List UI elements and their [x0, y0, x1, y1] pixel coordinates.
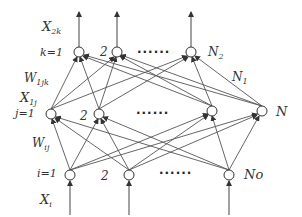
output-index-label: k=1 — [40, 47, 63, 58]
output-node-2-label: 2 — [100, 46, 108, 58]
hidden-ellipsis: ...... — [136, 103, 169, 117]
output-arrows — [79, 12, 191, 47]
input-arrows — [70, 181, 229, 215]
output-size-label: N2 — [208, 46, 224, 61]
connections-hidden-output — [51, 55, 262, 109]
hidden-node-3 — [207, 106, 217, 116]
input-node-no-label: No — [244, 168, 263, 181]
hidden-size-label: N1 — [232, 71, 248, 86]
output-node-1 — [74, 47, 84, 57]
input-node-2-label: 2 — [101, 170, 109, 182]
neural-network-diagram: X2k k=1 2 ...... N2 W1jk N1 X1j j=1 2 ..… — [0, 0, 302, 217]
output-node-2 — [112, 47, 122, 57]
input-node-no — [224, 170, 234, 180]
weight-label-wij: Wij — [32, 137, 49, 152]
hidden-node-2-label: 2 — [80, 110, 88, 122]
hidden-index-label: j=1 — [15, 108, 35, 119]
output-node-n2 — [186, 47, 196, 57]
output-variable-label: X2k — [42, 20, 61, 36]
hidden-node-2 — [94, 109, 104, 119]
input-variable-label: Xi — [40, 193, 52, 209]
hidden-node-n — [257, 106, 267, 116]
input-node-1 — [65, 170, 75, 180]
hidden-variable-label: X1j — [20, 91, 37, 107]
input-index-label: i=1 — [37, 168, 57, 179]
input-node-2 — [124, 170, 134, 180]
input-ellipsis: ...... — [159, 163, 192, 177]
weight-label-w1jk: W1jk — [24, 72, 49, 87]
hidden-node-1 — [46, 109, 56, 119]
output-ellipsis: ...... — [137, 42, 170, 56]
hidden-node-n-label: N — [276, 105, 287, 118]
